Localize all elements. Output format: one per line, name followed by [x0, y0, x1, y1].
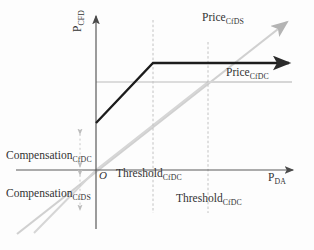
- diagram-svg: [0, 0, 314, 250]
- y-axis-label: PCFD: [72, 10, 86, 32]
- threshold-cfdc-label-1: ThresholdCfDC: [116, 168, 182, 182]
- figure-canvas: PCFD PDA O PriceCfDS PriceCfDC Threshold…: [0, 0, 314, 250]
- x-axis-label: PDA: [268, 172, 286, 186]
- origin-label: O: [99, 170, 107, 181]
- price-cfdc-label: PriceCfDC: [226, 67, 269, 81]
- compensation-cfdc-label: CompensationCfDC: [6, 150, 92, 164]
- threshold-cfdc-label-2: ThresholdCfDC: [176, 193, 242, 207]
- price-cfds-label: PriceCfDS: [202, 12, 244, 26]
- price-cfds-line: [17, 22, 287, 234]
- compensation-cfds-label: CompensationCfDS: [6, 188, 91, 202]
